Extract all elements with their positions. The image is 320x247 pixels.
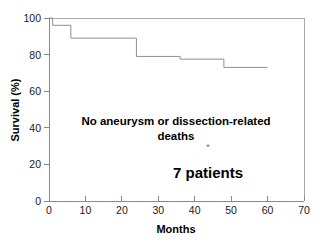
- x-tick-label: 50: [225, 204, 237, 216]
- y-tick-label: 0: [35, 195, 41, 207]
- patient-count-label: 7 patients: [173, 164, 243, 181]
- annotation-line-1: No aneurysm or dissection-related: [81, 115, 270, 127]
- chart-canvas: 100 80 60 40 20 0 0 10 20 30 40 50 60: [0, 0, 320, 247]
- x-tick-labels: 0 10 20 30 40 50 60 70: [46, 204, 310, 216]
- x-tick-label: 20: [116, 204, 128, 216]
- y-tick-labels: 100 80 60 40 20 0: [23, 12, 41, 207]
- x-tick-label: 30: [152, 204, 164, 216]
- x-tick-marks: [49, 196, 304, 201]
- y-tick-label: 40: [29, 122, 41, 134]
- y-tick-marks: [44, 18, 49, 201]
- y-axis-title: Survival (%): [9, 78, 21, 141]
- x-axis-title: Months: [156, 223, 195, 235]
- annotation-line-2: deaths: [157, 130, 194, 142]
- survival-curve: [49, 18, 268, 67]
- x-tick-label: 0: [46, 204, 52, 216]
- y-tick-label: 60: [29, 85, 41, 97]
- asterisk-icon: *: [206, 142, 210, 152]
- x-tick-label: 40: [189, 204, 201, 216]
- x-tick-label: 10: [80, 204, 92, 216]
- x-tick-label: 70: [298, 204, 310, 216]
- x-tick-label: 60: [262, 204, 274, 216]
- y-tick-label: 20: [29, 158, 41, 170]
- y-tick-label: 80: [29, 49, 41, 61]
- y-tick-label: 100: [23, 12, 41, 24]
- survival-chart: 100 80 60 40 20 0 0 10 20 30 40 50 60: [0, 0, 320, 247]
